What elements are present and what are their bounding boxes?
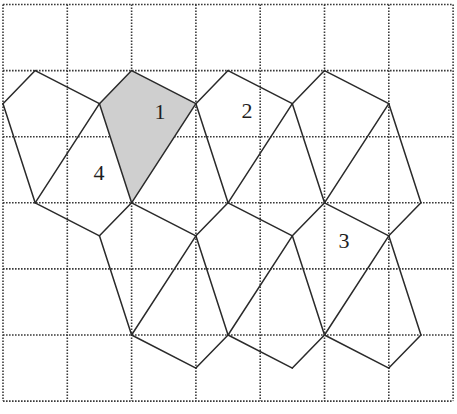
pentagon-edge-PF	[99, 203, 131, 236]
pentagon-edges	[3, 71, 421, 368]
pentagon-edge-GH	[196, 71, 228, 104]
pentagon-edge-RX	[132, 335, 196, 368]
pentagon-edge-BE	[3, 104, 35, 203]
pentagon-edge-IK	[292, 71, 324, 104]
pentagon-edge-PR	[99, 236, 131, 335]
pentagon-edge-IL	[292, 104, 324, 203]
pentagon-edge-UV	[325, 236, 389, 335]
pentagon-edge-TV	[292, 236, 324, 335]
pentagon-edge-MN	[389, 104, 421, 203]
pentagon-edge-QR	[132, 236, 196, 335]
diagram-canvas: 1 2 3 4	[0, 0, 457, 414]
pentagon-tiling-diagram: 1 2 3 4	[0, 0, 457, 414]
pentagon-edge-ZW	[389, 335, 421, 368]
region-label-3: 3	[339, 228, 350, 253]
pentagon-edge-XS	[196, 335, 228, 368]
region-label-2: 2	[242, 98, 253, 123]
pentagon-edge-TL	[292, 203, 324, 236]
pentagon-edge-KM	[325, 71, 389, 104]
pentagon-edge-FQ	[132, 203, 196, 236]
pentagon-edge-ML	[325, 104, 389, 203]
pentagon-edge-GJ	[196, 104, 228, 203]
region-label-1: 1	[155, 99, 166, 124]
pentagon-edge-YV	[292, 335, 324, 368]
pentagon-edge-UN	[389, 203, 421, 236]
pentagon-edge-QJ	[196, 203, 228, 236]
pentagon-edge-UW	[389, 236, 421, 335]
region-label-4: 4	[94, 160, 105, 185]
pentagon-edge-VZ	[325, 335, 389, 368]
pentagon-edge-QS	[196, 236, 228, 335]
pentagon-edge-LU	[325, 203, 389, 236]
pentagon-edge-AB	[3, 71, 35, 104]
